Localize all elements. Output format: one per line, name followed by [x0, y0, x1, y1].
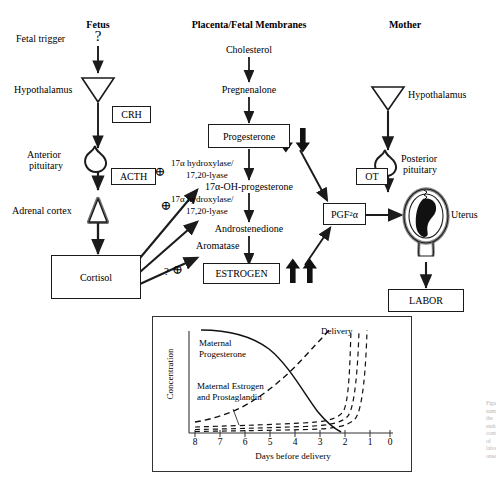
enzyme2-label-line2: 17,20-lyase: [186, 206, 228, 216]
oh-progesterone-label: 17α-OH-progesterone: [205, 181, 293, 192]
chart-annotation-progesterone-1: Maternal: [199, 338, 231, 348]
ot-label: OT: [365, 171, 378, 182]
concentration-chart: Concentration Maternal Progesterone Mate…: [152, 316, 412, 472]
chart-svg: [153, 317, 413, 473]
chart-xtick-2: 2: [343, 437, 348, 447]
labor-label: LABOR: [409, 295, 443, 306]
pgf2a-box: PGF2α: [323, 203, 366, 225]
chart-xtick-4: 4: [293, 437, 298, 447]
progesterone-label: Progesterone: [223, 131, 275, 142]
cholesterol-label: Cholesterol: [226, 44, 272, 55]
chart-annotation-estrogen-1: Maternal Estrogen: [197, 381, 264, 391]
chart-xtick-7: 7: [218, 437, 223, 447]
chart-annotation-delivery: Delivery: [321, 326, 353, 336]
chart-xtick-6: 6: [243, 437, 248, 447]
ot-box: OT: [356, 168, 388, 185]
estrogen-label: ESTROGEN: [215, 268, 267, 279]
chart-xtick-5: 5: [268, 437, 273, 447]
cortisol-box: Cortisol: [51, 255, 141, 299]
pgf2a-alpha: α: [353, 209, 358, 220]
progesterone-box: Progesterone: [208, 124, 290, 148]
chart-annotation-estrogen-2: and Prostaglandin: [197, 392, 262, 402]
fetal-trigger-question-icon: ?: [95, 28, 102, 45]
aromatase-question-icon: ?: [164, 265, 169, 277]
androstenedione-label: Androstenedione: [215, 223, 283, 234]
crh-box: CRH: [112, 106, 151, 123]
chart-xtick-3: 3: [318, 437, 323, 447]
plus-circle-icon-3: ⊕: [172, 263, 183, 278]
plus-circle-icon-2: ⊕: [161, 199, 172, 214]
anterior-pituitary-label-1: Anterior: [27, 149, 61, 160]
enzyme1-label-line1: 17α hydroxylase/: [171, 158, 233, 168]
posterior-pituitary-label-1: Posterior: [401, 153, 437, 164]
aromatase-label: Aromatase: [196, 240, 239, 251]
pregnenalone-label: Pregnenalone: [222, 84, 276, 95]
figure-caption-fragment: Figure summarizing the endocrine control…: [486, 400, 496, 460]
chart-xtick-1: 1: [368, 437, 373, 447]
uterus-label: Uterus: [451, 209, 478, 220]
acth-label: ACTH: [120, 171, 147, 182]
plus-circle-icon-1: ⊕: [155, 165, 166, 180]
estrogen-box: ESTROGEN: [203, 263, 280, 284]
crh-label: CRH: [121, 109, 142, 120]
chart-y-axis-label: Concentration: [165, 331, 175, 417]
adrenal-cortex-label: Adrenal cortex: [12, 205, 72, 216]
enzyme2-label-line1: 17α hydroxylase/: [171, 194, 233, 204]
acth-box: ACTH: [111, 168, 156, 185]
fetal-trigger-label: Fetal trigger: [16, 33, 65, 44]
labor-box: LABOR: [388, 289, 464, 312]
chart-xtick-0: 0: [388, 437, 393, 447]
column-header-placenta: Placenta/Fetal Membranes: [192, 19, 307, 30]
chart-xtick-8: 8: [193, 437, 198, 447]
figure-canvas: Fetus Placenta/Fetal Membranes Mother Fe…: [0, 0, 496, 481]
chart-x-axis-label: Days before delivery: [255, 451, 330, 461]
pgf2a-label: PGF: [331, 209, 349, 220]
posterior-pituitary-label-2: pituitary: [403, 164, 437, 175]
anterior-pituitary-label-2: pituitary: [29, 160, 63, 171]
enzyme1-label-line2: 17,20-lyase: [186, 170, 228, 180]
chart-annotation-progesterone-2: Progesterone: [199, 349, 246, 359]
fetus-hypothalamus-label: Hypothalamus: [14, 84, 72, 95]
cortisol-label: Cortisol: [80, 272, 112, 283]
column-header-mother: Mother: [389, 19, 421, 30]
mother-hypothalamus-label: Hypothalamus: [408, 89, 466, 100]
